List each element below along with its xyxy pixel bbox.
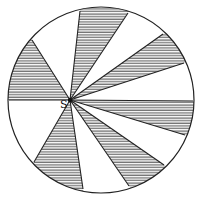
shaded-sector: [0, 15, 70, 100]
circle-sector-diagram: S: [0, 0, 203, 200]
point-s: [68, 98, 72, 102]
point-s-label: S: [60, 98, 68, 111]
